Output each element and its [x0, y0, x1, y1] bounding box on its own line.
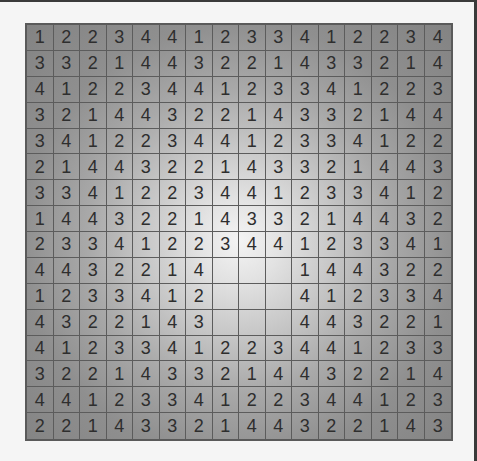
grid-cell[interactable]: 3 — [133, 154, 160, 180]
grid-cell[interactable]: 2 — [107, 258, 134, 284]
grid-cell[interactable]: 4 — [186, 129, 213, 155]
grid-cell[interactable]: 2 — [54, 25, 81, 51]
grid-cell[interactable]: 2 — [54, 413, 81, 439]
grid-cell[interactable]: 3 — [345, 51, 372, 77]
grid-cell[interactable]: 2 — [54, 284, 81, 310]
grid-cell[interactable]: 1 — [107, 361, 134, 387]
grid-cell[interactable]: 2 — [372, 310, 399, 336]
grid-cell[interactable]: 3 — [319, 180, 346, 206]
grid-cell[interactable]: 2 — [398, 77, 425, 103]
grid-cell[interactable]: 3 — [160, 361, 187, 387]
grid-cell[interactable]: 2 — [27, 413, 54, 439]
grid-cell[interactable]: 1 — [186, 25, 213, 51]
grid-cell[interactable]: 3 — [107, 336, 134, 362]
empty-cell[interactable] — [213, 258, 240, 284]
grid-cell[interactable]: 3 — [266, 25, 293, 51]
grid-cell[interactable]: 4 — [80, 180, 107, 206]
grid-cell[interactable]: 3 — [186, 310, 213, 336]
grid-cell[interactable]: 4 — [186, 387, 213, 413]
grid-cell[interactable]: 4 — [425, 51, 452, 77]
grid-cell[interactable]: 4 — [319, 258, 346, 284]
grid-cell[interactable]: 4 — [213, 180, 240, 206]
grid-cell[interactable]: 4 — [345, 258, 372, 284]
empty-cell[interactable] — [266, 284, 293, 310]
grid-cell[interactable]: 1 — [213, 387, 240, 413]
grid-cell[interactable]: 2 — [213, 103, 240, 129]
grid-cell[interactable]: 3 — [425, 77, 452, 103]
grid-cell[interactable]: 4 — [372, 206, 399, 232]
grid-cell[interactable]: 3 — [27, 129, 54, 155]
grid-cell[interactable]: 1 — [80, 129, 107, 155]
grid-cell[interactable]: 3 — [107, 25, 134, 51]
grid-cell[interactable]: 3 — [372, 258, 399, 284]
grid-cell[interactable]: 1 — [54, 336, 81, 362]
grid-cell[interactable]: 4 — [80, 154, 107, 180]
grid-cell[interactable]: 3 — [27, 361, 54, 387]
grid-cell[interactable]: 3 — [160, 387, 187, 413]
grid-cell[interactable]: 4 — [213, 206, 240, 232]
grid-cell[interactable]: 1 — [266, 51, 293, 77]
grid-cell[interactable]: 2 — [133, 206, 160, 232]
grid-cell[interactable]: 2 — [107, 387, 134, 413]
grid-cell[interactable]: 4 — [107, 413, 134, 439]
grid-cell[interactable]: 1 — [54, 154, 81, 180]
grid-cell[interactable]: 4 — [319, 336, 346, 362]
grid-cell[interactable]: 2 — [213, 25, 240, 51]
grid-cell[interactable]: 3 — [292, 413, 319, 439]
grid-cell[interactable]: 1 — [239, 361, 266, 387]
grid-cell[interactable]: 1 — [80, 413, 107, 439]
grid-cell[interactable]: 2 — [160, 232, 187, 258]
grid-cell[interactable]: 2 — [54, 103, 81, 129]
grid-cell[interactable]: 2 — [107, 129, 134, 155]
grid-cell[interactable]: 4 — [54, 387, 81, 413]
grid-cell[interactable]: 1 — [80, 103, 107, 129]
grid-cell[interactable]: 3 — [319, 51, 346, 77]
grid-cell[interactable]: 4 — [292, 25, 319, 51]
grid-cell[interactable]: 4 — [372, 180, 399, 206]
grid-cell[interactable]: 2 — [239, 51, 266, 77]
grid-cell[interactable]: 3 — [345, 310, 372, 336]
grid-cell[interactable]: 1 — [80, 387, 107, 413]
grid-cell[interactable]: 3 — [266, 206, 293, 232]
grid-cell[interactable]: 3 — [319, 103, 346, 129]
grid-cell[interactable]: 3 — [80, 284, 107, 310]
grid-cell[interactable]: 4 — [54, 258, 81, 284]
grid-cell[interactable]: 2 — [345, 284, 372, 310]
grid-cell[interactable]: 1 — [27, 284, 54, 310]
grid-cell[interactable]: 1 — [319, 206, 346, 232]
grid-cell[interactable]: 2 — [186, 284, 213, 310]
grid-cell[interactable]: 4 — [160, 77, 187, 103]
grid-cell[interactable]: 2 — [398, 129, 425, 155]
grid-cell[interactable]: 1 — [27, 206, 54, 232]
grid-cell[interactable]: 3 — [319, 361, 346, 387]
grid-cell[interactable]: 1 — [398, 51, 425, 77]
grid-cell[interactable]: 3 — [425, 387, 452, 413]
grid-cell[interactable]: 3 — [398, 25, 425, 51]
grid-cell[interactable]: 3 — [398, 284, 425, 310]
grid-cell[interactable]: 3 — [239, 206, 266, 232]
grid-cell[interactable]: 2 — [133, 180, 160, 206]
grid-cell[interactable]: 3 — [186, 180, 213, 206]
grid-cell[interactable]: 1 — [398, 361, 425, 387]
grid-cell[interactable]: 1 — [372, 129, 399, 155]
grid-cell[interactable]: 2 — [292, 206, 319, 232]
grid-cell[interactable]: 3 — [27, 103, 54, 129]
empty-cell[interactable] — [239, 284, 266, 310]
grid-cell[interactable]: 1 — [160, 258, 187, 284]
grid-cell[interactable]: 3 — [425, 413, 452, 439]
grid-cell[interactable]: 2 — [80, 77, 107, 103]
grid-cell[interactable]: 4 — [292, 51, 319, 77]
grid-cell[interactable]: 4 — [27, 77, 54, 103]
grid-cell[interactable]: 2 — [266, 129, 293, 155]
grid-cell[interactable]: 1 — [425, 232, 452, 258]
grid-cell[interactable]: 2 — [345, 413, 372, 439]
grid-cell[interactable]: 4 — [133, 25, 160, 51]
grid-cell[interactable]: 3 — [372, 284, 399, 310]
grid-cell[interactable]: 4 — [266, 232, 293, 258]
grid-cell[interactable]: 1 — [27, 25, 54, 51]
grid-cell[interactable]: 4 — [133, 361, 160, 387]
grid-cell[interactable]: 4 — [160, 25, 187, 51]
grid-cell[interactable]: 2 — [107, 310, 134, 336]
grid-cell[interactable]: 1 — [186, 336, 213, 362]
grid-cell[interactable]: 4 — [345, 129, 372, 155]
